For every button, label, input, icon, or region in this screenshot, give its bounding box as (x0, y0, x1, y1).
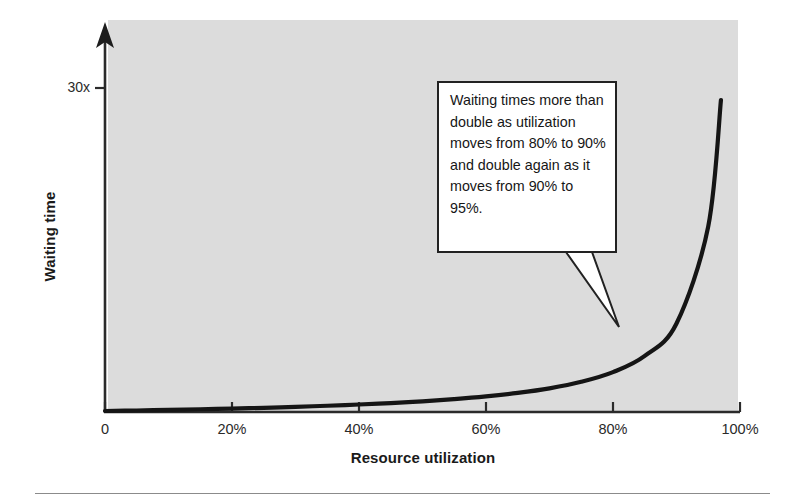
x-tick-label-80: 80% (573, 421, 653, 437)
x-tick-label-100: 100% (700, 421, 780, 437)
bottom-divider-rule (35, 493, 770, 494)
x-axis-label: Resource utilization (108, 449, 738, 466)
x-tick-label-60: 60% (446, 421, 526, 437)
y-tick-label-30x: 30x (40, 79, 90, 95)
callout-text: Waiting times more than double as utiliz… (450, 90, 607, 219)
y-axis-label: Waiting time (41, 142, 58, 332)
x-tick-label-0: 0 (65, 421, 145, 437)
queueing-waiting-time-figure: Waiting time 30x 0 20% 40% 60% 80% 100% … (0, 0, 802, 503)
x-tick-label-40: 40% (319, 421, 399, 437)
x-tick-label-20: 20% (192, 421, 272, 437)
callout-tail (566, 252, 619, 327)
waiting-time-curve (105, 100, 721, 411)
utilization-callout-box: Waiting times more than double as utiliz… (437, 81, 617, 253)
